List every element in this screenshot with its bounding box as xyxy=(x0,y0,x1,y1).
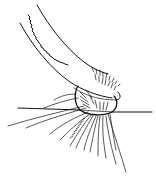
bristle-tuft xyxy=(92,68,120,90)
collar-shading xyxy=(80,90,108,110)
surface-line-segment xyxy=(80,110,112,112)
radiating-fibers xyxy=(8,94,126,172)
shaft-upper-edge xyxy=(37,5,108,74)
illustration-canvas xyxy=(0,0,156,178)
line-art-figure xyxy=(0,0,156,178)
